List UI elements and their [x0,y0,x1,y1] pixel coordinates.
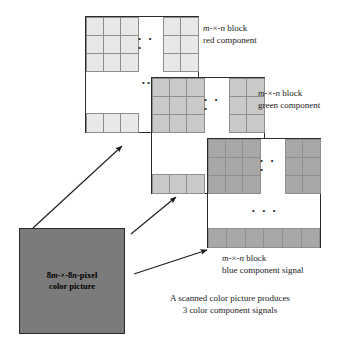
cell [245,228,265,248]
cell [285,139,304,158]
cell [103,53,121,72]
blue-grid-bottom [208,228,320,247]
green-grid-bottom [152,174,204,193]
cell [169,96,187,115]
cell [302,175,321,194]
cell [242,175,260,194]
cell [242,157,260,176]
cell [186,96,204,115]
cell [225,175,243,194]
cell [120,113,138,133]
cell [285,175,304,194]
cell [86,113,104,133]
blue-label-line2: blue component signal [222,265,303,275]
red-grid-top-left [86,17,138,71]
blue-label-line1: m-×-n block [222,253,266,263]
color-picture-box: 8m-×-8n-pixel color picture [19,228,125,334]
cell [163,53,182,72]
arrow-to-green-component [131,197,176,234]
cell [208,228,228,248]
cell [86,35,104,54]
cell [208,157,226,176]
cell [152,114,170,133]
cell [186,78,204,97]
blue-middle-dots: • • • [250,205,280,217]
cell [120,35,138,54]
cell [169,114,187,133]
cell [229,114,248,133]
red-component-label: m-×-n block red component [203,23,257,46]
cell [86,17,104,36]
cell [180,17,199,36]
color-picture-label-line2: color picture [49,281,95,291]
cell [229,78,248,97]
cell [120,17,138,36]
cell [225,139,243,158]
cell [263,228,283,248]
cell [152,78,170,97]
cell [180,35,199,54]
cell [229,96,248,115]
arrow-to-blue-component [134,250,207,274]
green-grid-top-left [152,78,204,132]
cell [302,157,321,176]
blue-grid-top-right [285,139,320,193]
cell [152,96,170,115]
cell [225,157,243,176]
cell [302,139,321,158]
green-label-line2: green component [258,100,320,110]
red-label-line2: red component [203,35,257,45]
blue-component-label: m-×-n block blue component signal [222,253,303,276]
red-grid-top-right [163,17,198,71]
cell [282,228,302,248]
color-picture-label: 8m-×-8n-pixel color picture [47,270,98,292]
green-horizontal-dots: • • • [204,99,229,111]
cell [86,53,104,72]
cell [163,35,182,54]
cell [208,175,226,194]
caption-line2: 3 color component signals [183,305,278,315]
cell [103,17,121,36]
arrow-to-red-component [33,146,122,228]
cell [186,174,204,194]
green-component-label: m-×-n block green component [258,88,320,111]
blue-grid-top-left [208,139,260,193]
cell [103,35,121,54]
color-picture-label-line1: 8m-×-8n-pixel [47,270,98,280]
cell [169,174,187,194]
cell [285,157,304,176]
cell [120,53,138,72]
cell [246,114,265,133]
cell [152,174,170,194]
cell [169,78,187,97]
cell [301,228,321,248]
figure-canvas: • • • • • m-×-n block red component • • … [0,0,350,342]
cell [103,113,121,133]
green-label-line1: m-×-n block [258,88,302,98]
cell [208,139,226,158]
red-grid-bottom [86,113,138,132]
blue-horizontal-dots: • • • [260,160,285,172]
caption-line1: A scanned color picture produces [170,293,290,303]
red-horizontal-dots: • • • [138,38,163,50]
cell [226,228,246,248]
cell [180,53,199,72]
cell [163,17,182,36]
red-label-line1: m-×-n block [203,23,247,33]
cell [186,114,204,133]
cell [242,139,260,158]
figure-caption: A scanned color picture produces 3 color… [145,292,315,316]
